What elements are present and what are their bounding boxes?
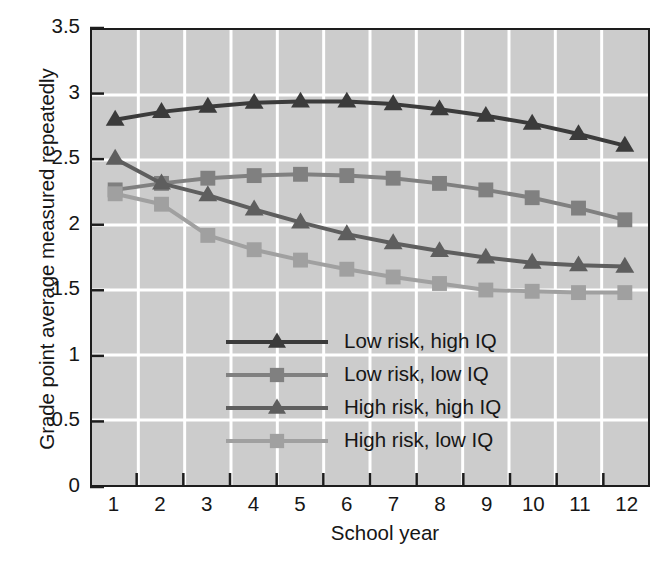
x-axis-title: School year bbox=[85, 521, 667, 545]
legend-swatch-high-risk-low-iq bbox=[222, 425, 332, 458]
x-tick-label: 5 bbox=[275, 492, 325, 516]
x-tick-label: 10 bbox=[508, 492, 558, 516]
y-tick-label: 2.5 bbox=[52, 145, 81, 169]
y-tick-label: 1.5 bbox=[52, 276, 81, 300]
legend-swatch-high-risk-high-iq bbox=[222, 392, 332, 425]
y-axis-tick-labels: 00.511.522.533.5 bbox=[0, 0, 80, 570]
legend-item: Low risk, high IQ bbox=[222, 326, 542, 359]
y-tick-label: 3 bbox=[69, 80, 80, 104]
legend-swatch-low-risk-low-iq bbox=[222, 359, 332, 392]
x-tick-label: 12 bbox=[602, 492, 652, 516]
x-tick-label: 8 bbox=[415, 492, 465, 516]
y-tick-label: 0.5 bbox=[52, 407, 81, 431]
x-tick-label: 7 bbox=[368, 492, 418, 516]
y-tick-label: 1 bbox=[69, 342, 80, 366]
y-tick-label: 2 bbox=[69, 211, 80, 235]
legend-label: High risk, low IQ bbox=[344, 428, 493, 452]
x-tick-label: 4 bbox=[228, 492, 278, 516]
legend-label: Low risk, high IQ bbox=[344, 329, 497, 353]
plot-area: Low risk, high IQ Low risk, low IQ High … bbox=[90, 28, 650, 487]
x-tick-label: 11 bbox=[555, 492, 605, 516]
x-tick-label: 6 bbox=[322, 492, 372, 516]
chart-figure: Grade point average measured repeatedly … bbox=[0, 0, 667, 570]
legend-label: Low risk, low IQ bbox=[344, 362, 489, 386]
x-tick-label: 2 bbox=[135, 492, 185, 516]
legend-label: High risk, high IQ bbox=[344, 395, 501, 419]
x-tick-label: 3 bbox=[182, 492, 232, 516]
x-tick-label: 9 bbox=[462, 492, 512, 516]
x-axis-tick-labels: 123456789101112 bbox=[0, 488, 667, 522]
legend-item: High risk, high IQ bbox=[222, 392, 542, 425]
chart-legend: Low risk, high IQ Low risk, low IQ High … bbox=[222, 326, 542, 458]
y-tick-label: 3.5 bbox=[52, 14, 81, 38]
x-tick-label: 1 bbox=[88, 492, 138, 516]
legend-item: High risk, low IQ bbox=[222, 425, 542, 458]
legend-item: Low risk, low IQ bbox=[222, 359, 542, 392]
legend-swatch-low-risk-high-iq bbox=[222, 326, 332, 359]
